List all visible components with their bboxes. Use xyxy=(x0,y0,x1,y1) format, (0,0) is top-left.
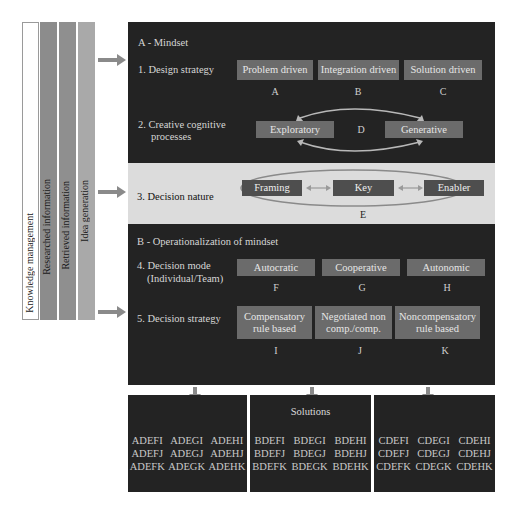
solution-code: ADEGK xyxy=(168,461,205,472)
solution-code: CDEHK xyxy=(456,461,492,472)
letter-j: J xyxy=(350,345,370,356)
option-line: Negotiated non xyxy=(321,311,385,323)
option-negotiated: Negotiated non comp./comp. xyxy=(315,306,392,339)
solution-code: CDEHI xyxy=(458,435,490,446)
decision-mode-label-2: (Individual/Team) xyxy=(147,273,223,284)
option-autonomic: Autonomic xyxy=(407,259,485,276)
solutions-group-b: Solutions BDEFI BDEGI BDEHI BDEFJ BDEGJ … xyxy=(250,395,371,492)
letter-g: G xyxy=(352,282,372,293)
solution-row: ADEFI ADEGI ADEHI xyxy=(128,435,247,446)
solutions-group-a: ADEFI ADEGI ADEHI ADEFJ ADEGJ ADEHJ ADEF… xyxy=(128,395,247,492)
solution-code: ADEFJ xyxy=(131,448,163,459)
option-line: rule based xyxy=(253,323,296,335)
section-b-title: B - Operationalization of mindset xyxy=(137,236,278,247)
option-line: Noncompensatory xyxy=(399,311,476,323)
solution-row: ADEFK ADEGK ADEHK xyxy=(128,461,247,472)
solution-code: BDEHJ xyxy=(334,448,367,459)
letter-k: K xyxy=(435,345,455,356)
option-framing: Framing xyxy=(242,180,302,196)
solution-code: BDEGJ xyxy=(293,448,326,459)
double-arrow-icon xyxy=(398,184,423,192)
solution-code: BDEFJ xyxy=(254,448,285,459)
decision-strategy-label: 5. Decision strategy xyxy=(137,313,221,324)
option-enabler: Enabler xyxy=(424,180,484,196)
solutions-group-c: CDEFI CDEGI CDEHI CDEFJ CDEGJ CDEHJ CDEF… xyxy=(374,395,495,492)
solution-code: ADEFI xyxy=(132,435,163,446)
option-key: Key xyxy=(333,180,394,196)
solution-row: BDEFJ BDEGJ BDEHJ xyxy=(250,448,371,459)
option-line: comp./comp. xyxy=(326,323,381,335)
solution-code: ADEHJ xyxy=(210,448,243,459)
option-autocratic: Autocratic xyxy=(237,259,315,276)
solution-code: BDEHK xyxy=(332,461,368,472)
option-compensatory: Compensatory rule based xyxy=(237,306,312,339)
solution-code: ADEGJ xyxy=(170,448,203,459)
solution-row: CDEFJ CDEGJ CDEHJ xyxy=(374,448,495,459)
option-line: Compensatory xyxy=(244,311,305,323)
solution-code: ADEFK xyxy=(130,461,165,472)
solution-code: ADEGI xyxy=(170,435,203,446)
option-noncompensatory: Noncompensatory rule based xyxy=(395,306,480,339)
solution-code: CDEGK xyxy=(416,461,452,472)
solution-code: CDEHJ xyxy=(458,448,491,459)
letter-e: E xyxy=(353,209,373,220)
option-line: rule based xyxy=(416,323,459,335)
option-cooperative: Cooperative xyxy=(322,259,400,276)
double-arrow-icon xyxy=(306,184,331,192)
solution-code: CDEGJ xyxy=(417,448,450,459)
decision-nature-label: 3. Decision nature xyxy=(137,191,214,202)
solution-code: ADEHI xyxy=(211,435,244,446)
solution-row: ADEFJ ADEGJ ADEHJ xyxy=(128,448,247,459)
letter-h: H xyxy=(437,282,457,293)
solution-row: CDEFI CDEGI CDEHI xyxy=(374,435,495,446)
solution-code: BDEGK xyxy=(292,461,328,472)
solution-code: CDEFK xyxy=(376,461,410,472)
solution-code: BDEHI xyxy=(334,435,366,446)
solution-code: CDEFJ xyxy=(378,448,409,459)
solution-code: ADEHK xyxy=(208,461,245,472)
letter-i: I xyxy=(266,345,286,356)
solution-row: BDEFI BDEGI BDEHI xyxy=(250,435,371,446)
solutions-title: Solutions xyxy=(250,406,371,417)
letter-f: F xyxy=(266,282,286,293)
solution-row: BDEFK BDEGK BDEHK xyxy=(250,461,371,472)
solution-code: CDEGI xyxy=(418,435,450,446)
decision-mode-label-1: 4. Decision mode xyxy=(137,260,211,271)
solution-code: BDEFI xyxy=(254,435,284,446)
solution-row: CDEFK CDEGK CDEHK xyxy=(374,461,495,472)
solution-code: CDEFI xyxy=(378,435,408,446)
solution-code: BDEGI xyxy=(294,435,326,446)
solution-code: BDEFK xyxy=(252,461,286,472)
